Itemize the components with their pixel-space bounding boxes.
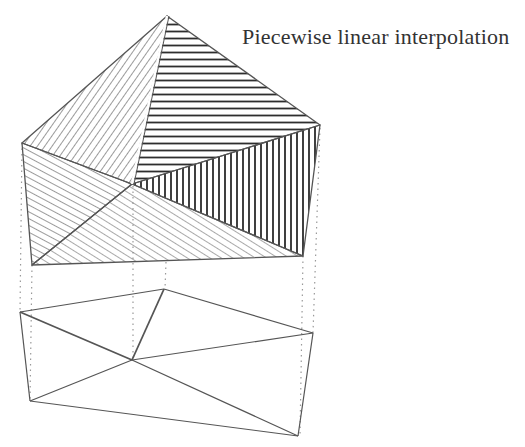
interpolated-surface [22,16,320,265]
interpolation-diagram [0,0,525,447]
mesh-edge [30,360,132,401]
projection-line [165,262,166,289]
mesh-edge [132,333,313,360]
mesh-edge [30,401,298,436]
mesh-edge [298,333,313,436]
projection-line [20,143,22,312]
mesh-edge [20,289,164,312]
triangulation-mesh [20,289,313,436]
mesh-edge [132,289,164,360]
mesh-edge [20,312,30,401]
projection-line [30,265,32,401]
mesh-edge [164,289,313,333]
mesh-edge [20,312,132,360]
